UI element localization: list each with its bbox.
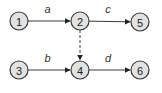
node-label: 6 xyxy=(137,65,143,77)
edge-label-d: d xyxy=(105,52,112,64)
edge-4-6: d xyxy=(89,52,130,70)
node-6: 6 xyxy=(131,61,149,79)
edge-label-b: b xyxy=(44,52,50,64)
node-4: 4 xyxy=(71,61,89,79)
edge-2-5: c xyxy=(89,3,130,22)
node-label: 5 xyxy=(137,17,143,29)
node-label: 2 xyxy=(77,16,83,28)
node-5: 5 xyxy=(131,13,149,31)
node-label: 3 xyxy=(16,65,22,77)
node-label: 4 xyxy=(77,65,83,77)
node-3: 3 xyxy=(10,61,28,79)
node-2: 2 xyxy=(71,12,89,30)
edge-label-c: c xyxy=(105,3,111,15)
edge-line xyxy=(89,21,130,22)
node-label: 1 xyxy=(16,16,22,28)
edge-label-a: a xyxy=(44,3,50,15)
node-1: 1 xyxy=(10,12,28,30)
network-diagram: acbd 123456 xyxy=(0,0,162,93)
edge-1-2: a xyxy=(28,3,70,21)
edge-3-4: b xyxy=(28,52,70,70)
